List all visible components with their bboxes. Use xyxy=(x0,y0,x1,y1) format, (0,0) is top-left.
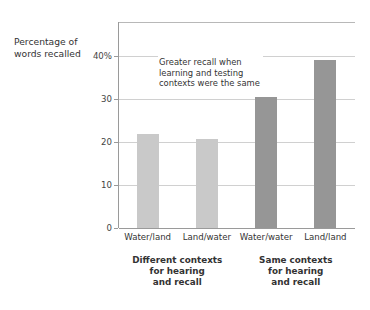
y-tick-mark-40 xyxy=(114,56,118,57)
bar-water-land xyxy=(137,134,159,228)
x-tick-label-3: Land/land xyxy=(304,232,346,242)
chart-annotation: Greater recall when learning and testing… xyxy=(158,56,263,90)
x-tick-label-2: Water/water xyxy=(240,232,293,242)
y-tick-label-30: 30 xyxy=(101,94,112,104)
y-tick-label-20: 20 xyxy=(101,137,112,147)
y-tick-mark-20 xyxy=(114,142,118,143)
y-tick-label-0: 0 xyxy=(107,223,112,233)
y-tick-label-40: 40% xyxy=(93,51,112,61)
y-tick-mark-30 xyxy=(114,99,118,100)
gridline-0 xyxy=(119,228,355,229)
group-label-1: Same contexts for hearing and recall xyxy=(259,255,332,289)
y-tick-mark-10 xyxy=(114,185,118,186)
y-tick-mark-0 xyxy=(114,228,118,229)
bar-chart-figure: Percentage of words recalled 010203040% … xyxy=(0,0,370,310)
x-tick-label-1: Land/water xyxy=(183,232,231,242)
plot-frame-top xyxy=(118,22,355,23)
plot-area: 010203040% xyxy=(118,22,355,228)
group-label-0: Different contexts for hearing and recal… xyxy=(132,255,222,289)
y-tick-label-10: 10 xyxy=(101,180,112,190)
bar-water-water xyxy=(255,97,277,228)
bar-land-water xyxy=(196,139,218,228)
x-tick-label-0: Water/land xyxy=(124,232,171,242)
y-axis-line xyxy=(118,22,119,228)
bar-land-land xyxy=(314,60,336,228)
